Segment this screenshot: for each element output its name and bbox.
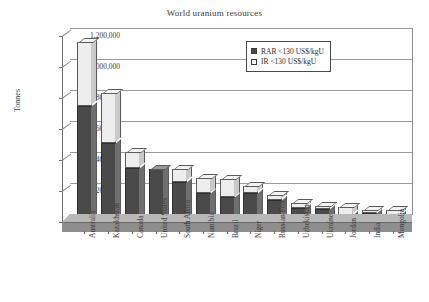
x-axis-tick-label: India bbox=[373, 223, 382, 238]
x-axis-tick-mark bbox=[132, 231, 133, 234]
x-axis-tick-label: Brazil bbox=[231, 220, 240, 238]
legend-label-rar: RAR <130 US$/kgU bbox=[261, 47, 324, 56]
gridline bbox=[70, 121, 412, 122]
x-axis-tick-label: South Africa bbox=[183, 200, 192, 238]
x-axis-tick-mark bbox=[108, 231, 109, 234]
x-axis-tick-label: Kazakhstan bbox=[112, 203, 121, 238]
legend-swatch-ir-icon bbox=[251, 59, 257, 65]
plot-area: 1,200,0001,000,000800,000600,000400,0002… bbox=[62, 36, 412, 222]
x-axis-tick-mark bbox=[156, 231, 157, 234]
x-axis-tick-label: Australia bbox=[88, 211, 97, 239]
bar-segment-ir bbox=[243, 186, 258, 193]
x-axis-tick-label: Canada bbox=[136, 216, 145, 239]
bar-side-face bbox=[91, 39, 97, 105]
y-axis-label: Tonnes bbox=[13, 89, 22, 112]
x-axis-tick-label: Namibia bbox=[207, 212, 216, 238]
x-axis-tick-mark bbox=[274, 231, 275, 234]
bar-segment-rar bbox=[125, 168, 140, 222]
bar-side-face bbox=[139, 164, 145, 221]
chart-figure: World uranium resources Tonnes 1,200,000… bbox=[0, 0, 429, 302]
gridline bbox=[70, 59, 412, 60]
x-axis-tick-label: Niger bbox=[254, 221, 263, 238]
gridline bbox=[70, 152, 412, 153]
legend-swatch-rar-icon bbox=[251, 48, 257, 54]
legend-item-rar: RAR <130 US$/kgU bbox=[251, 47, 324, 56]
chart-legend: RAR <130 US$/kgU IR <130 US$/kgU bbox=[246, 41, 331, 72]
x-axis-tick-label: Jordan bbox=[349, 218, 358, 238]
legend-item-ir: IR <130 US$/kgU bbox=[251, 57, 324, 66]
gridline bbox=[70, 28, 412, 29]
bar-side-face bbox=[91, 102, 97, 221]
x-axis-tick-label: United States bbox=[160, 198, 169, 238]
x-axis-tick-mark bbox=[179, 231, 180, 234]
x-axis-tick-mark bbox=[369, 231, 370, 234]
gridline bbox=[70, 183, 412, 184]
x-axis-tick-label: Mongolia bbox=[397, 209, 406, 238]
bar-segment-ir bbox=[101, 93, 116, 143]
x-axis-tick-label: Russian Fed. bbox=[278, 199, 287, 238]
x-axis-tick-label: Uzbekistan bbox=[302, 204, 311, 238]
x-axis-tick-mark bbox=[250, 231, 251, 234]
bar-side-face bbox=[115, 90, 121, 142]
x-axis-tick-mark bbox=[322, 231, 323, 234]
x-axis-tick-mark bbox=[298, 231, 299, 234]
bar-segment-ir bbox=[196, 178, 211, 194]
bar-segment-ir bbox=[338, 207, 353, 215]
x-axis-tick-mark bbox=[227, 231, 228, 234]
legend-label-ir: IR <130 US$/kgU bbox=[261, 57, 316, 66]
bar-segment-ir bbox=[172, 169, 187, 182]
bar-segment-ir bbox=[220, 179, 235, 198]
bar-column bbox=[125, 152, 140, 222]
bar-segment-ir bbox=[125, 152, 140, 168]
x-axis-tick-mark bbox=[393, 231, 394, 234]
bar-segment-rar bbox=[77, 106, 92, 222]
x-axis-tick-label: Ukraine bbox=[326, 214, 335, 238]
x-axis-tick-mark bbox=[203, 231, 204, 234]
bar-column bbox=[77, 42, 92, 222]
chart-title: World uranium resources bbox=[0, 8, 429, 18]
bar-segment-ir bbox=[77, 42, 92, 106]
x-axis-tick-mark bbox=[345, 231, 346, 234]
x-axis-tick-mark bbox=[84, 231, 85, 234]
